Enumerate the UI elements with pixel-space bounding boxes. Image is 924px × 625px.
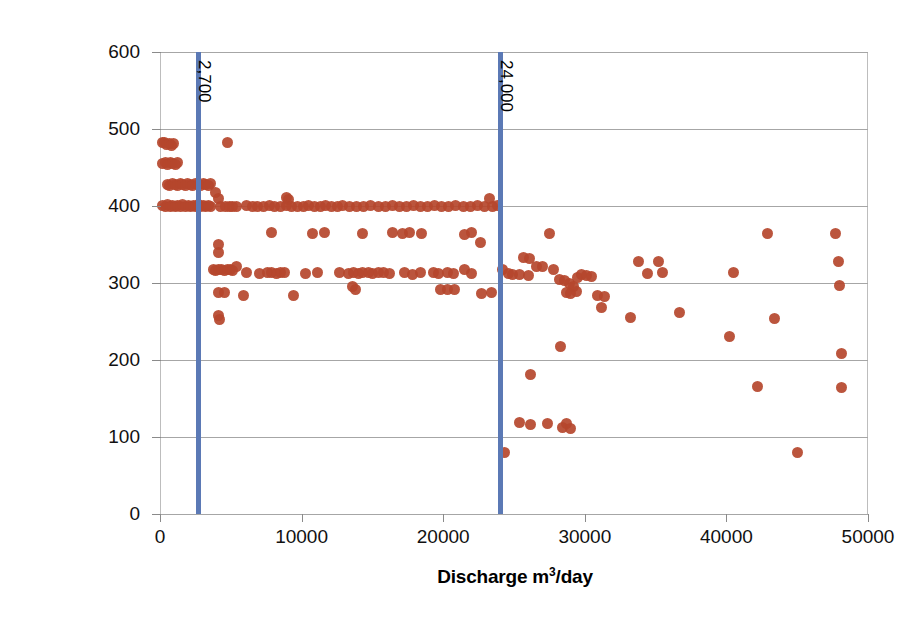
data-point: [466, 227, 477, 238]
data-point: [555, 341, 566, 352]
data-point: [523, 270, 534, 281]
x-axis-title: Discharge m3/day: [160, 566, 870, 588]
y-tick-label-500: 500: [88, 119, 140, 138]
data-point: [657, 267, 668, 278]
data-point: [168, 138, 179, 149]
y-tick-label-200: 200: [88, 350, 140, 369]
y-tick-mark-300: [152, 283, 161, 284]
data-point: [836, 382, 847, 393]
data-point: [834, 280, 845, 291]
data-point: [571, 286, 582, 297]
y-tick-label-100: 100: [88, 427, 140, 446]
data-point: [792, 447, 803, 458]
data-point: [728, 267, 739, 278]
gridline-y-0: [160, 514, 868, 515]
data-point: [449, 284, 460, 295]
data-point: [307, 228, 318, 239]
y-tick-mark-100: [152, 437, 161, 438]
data-point: [830, 228, 841, 239]
data-point: [653, 256, 664, 267]
x-tick-mark-0: [160, 514, 161, 522]
data-point: [475, 237, 486, 248]
x-tick-label-10000: 10000: [247, 527, 357, 546]
data-point: [752, 381, 763, 392]
x-tick-mark-20000: [443, 514, 444, 522]
data-point: [241, 267, 252, 278]
y-tick-mark-400: [152, 206, 161, 207]
data-point: [633, 256, 644, 267]
data-point: [544, 228, 555, 239]
data-point: [172, 157, 183, 168]
x-tick-mark-10000: [302, 514, 303, 522]
y-tick-mark-500: [152, 129, 161, 130]
data-point: [514, 417, 525, 428]
x-tick-mark-50000: [868, 514, 869, 522]
data-point: [596, 302, 607, 313]
data-point: [213, 247, 224, 258]
gridline-y-600: [160, 52, 868, 53]
y-tick-label-0: 0: [88, 504, 140, 523]
gridline-y-500: [160, 129, 868, 130]
data-point: [312, 267, 323, 278]
data-point: [674, 307, 685, 318]
gridline-y-300: [160, 283, 868, 284]
y-tick-mark-200: [152, 360, 161, 361]
data-point: [404, 227, 415, 238]
data-point: [486, 287, 497, 298]
data-point: [833, 256, 844, 267]
data-point: [836, 348, 847, 359]
x-axis-title-prefix: Discharge m: [437, 566, 549, 587]
threshold-line-24000: [498, 52, 503, 514]
x-axis-title-suffix: /day: [556, 566, 593, 587]
data-point: [222, 137, 233, 148]
threshold-label-24000: 24,000: [496, 60, 516, 112]
data-point: [769, 313, 780, 324]
x-tick-mark-40000: [726, 514, 727, 522]
data-point: [537, 261, 548, 272]
data-point: [448, 268, 459, 279]
data-point: [350, 284, 361, 295]
data-point: [219, 287, 230, 298]
data-point: [625, 312, 636, 323]
y-tick-label-400: 400: [88, 196, 140, 215]
data-point: [384, 268, 395, 279]
y-tick-label-600: 600: [88, 42, 140, 61]
plot-area: [160, 52, 868, 514]
data-point: [586, 271, 597, 282]
data-point: [525, 419, 536, 430]
data-point: [642, 268, 653, 279]
y-tick-label-300: 300: [88, 273, 140, 292]
x-tick-label-40000: 40000: [671, 527, 781, 546]
threshold-label-2700: 2,700: [194, 60, 214, 103]
data-point: [762, 228, 773, 239]
data-point: [542, 418, 553, 429]
gridline-y-100: [160, 437, 868, 438]
data-point: [300, 268, 311, 279]
data-point: [279, 267, 290, 278]
data-point: [357, 228, 368, 239]
data-point: [416, 228, 427, 239]
data-point: [525, 369, 536, 380]
x-tick-label-0: 0: [105, 527, 215, 546]
data-point: [319, 227, 330, 238]
data-point: [288, 290, 299, 301]
y-tick-mark-600: [152, 52, 161, 53]
data-point: [565, 423, 576, 434]
data-point: [214, 314, 225, 325]
threshold-line-2700: [196, 52, 201, 514]
x-tick-label-30000: 30000: [530, 527, 640, 546]
data-point: [599, 291, 610, 302]
data-point: [466, 268, 477, 279]
data-point: [238, 290, 249, 301]
x-tick-mark-30000: [585, 514, 586, 522]
data-point: [724, 331, 735, 342]
data-point: [266, 227, 277, 238]
data-point: [415, 267, 426, 278]
gridline-y-200: [160, 360, 868, 361]
x-tick-label-20000: 20000: [388, 527, 498, 546]
x-tick-label-50000: 50000: [813, 527, 923, 546]
scatter-chart: Electrical Conductivity µS/cm Discharge …: [0, 0, 924, 625]
